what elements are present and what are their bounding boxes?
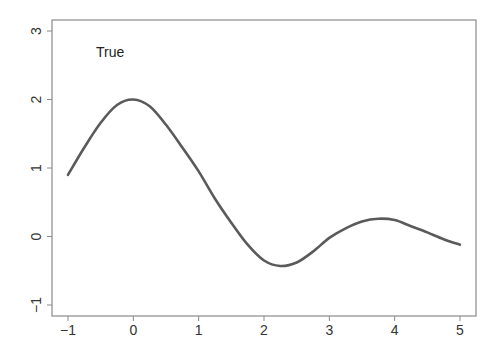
x-tick-label: 2 bbox=[260, 322, 268, 338]
curve-annotation-label: True bbox=[96, 44, 124, 60]
y-tick-label: 3 bbox=[28, 27, 44, 35]
series-line-true bbox=[68, 99, 460, 266]
x-tick-label: 1 bbox=[195, 322, 203, 338]
y-axis: −10123 bbox=[28, 27, 52, 313]
y-tick-label: 2 bbox=[28, 95, 44, 103]
y-tick-label: 1 bbox=[28, 164, 44, 172]
y-tick-label: 0 bbox=[28, 232, 44, 240]
x-axis: −1012345 bbox=[60, 316, 464, 338]
x-tick-label: 0 bbox=[129, 322, 137, 338]
x-tick-label: 3 bbox=[325, 322, 333, 338]
plot-frame bbox=[52, 20, 476, 316]
x-tick-label: −1 bbox=[60, 322, 76, 338]
x-tick-label: 5 bbox=[456, 322, 464, 338]
x-tick-label: 4 bbox=[391, 322, 399, 338]
line-chart: −1012345 −10123 True bbox=[0, 0, 501, 356]
y-tick-label: −1 bbox=[28, 297, 44, 313]
